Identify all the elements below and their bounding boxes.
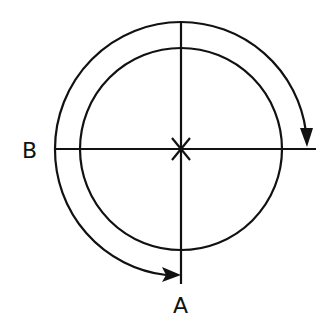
label-a: A — [173, 293, 188, 318]
arrowhead-right-icon — [300, 128, 313, 147]
label-b: B — [22, 138, 37, 163]
rotation-diagram: B A — [0, 0, 331, 324]
lower-left-arc — [55, 149, 166, 275]
